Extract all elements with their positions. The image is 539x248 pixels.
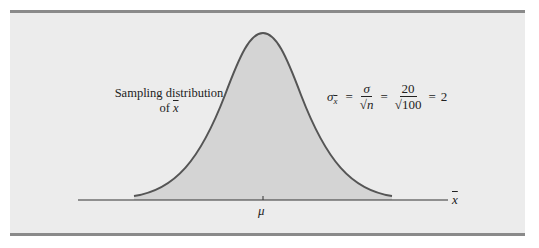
normal-curve-plot <box>0 0 539 248</box>
fraction-denominator: √n <box>358 97 376 112</box>
equals-sign: = <box>428 89 435 105</box>
equals-sign: = <box>345 89 352 105</box>
fraction-numerator: 20 <box>400 81 417 97</box>
distribution-label-line1: Sampling distribution <box>115 86 224 100</box>
distribution-label: Sampling distribution of x <box>109 86 229 116</box>
mean-label: μ <box>258 203 265 219</box>
xbar-subscript: x <box>333 96 337 106</box>
fraction-20-over-root-100: 20 √100 <box>393 81 424 112</box>
distribution-label-line2: of x <box>109 101 229 116</box>
fraction-sigma-over-root-n: σ √n <box>358 81 376 112</box>
xbar-symbol: x <box>173 101 179 115</box>
formula-result: 2 <box>441 89 448 105</box>
fraction-numerator: σ <box>361 81 371 97</box>
standard-error-formula: σ x = σ √n = 20 √100 = 2 <box>327 81 447 112</box>
curve-fill-area <box>134 33 392 200</box>
fraction-denominator: √100 <box>393 97 424 112</box>
equals-sign: = <box>380 89 387 105</box>
x-axis-label: x <box>452 192 458 208</box>
